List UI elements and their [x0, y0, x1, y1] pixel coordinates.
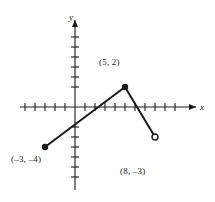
falling-segment: [125, 87, 155, 137]
vertex-point-marker: [122, 84, 128, 90]
right-endpoint-label: (8, –3): [120, 167, 145, 176]
left-endpoint-label: (–3, –4): [11, 155, 41, 164]
left-endpoint-marker: [42, 144, 48, 150]
rising-segment: [45, 87, 125, 147]
graph-canvas: [0, 0, 215, 202]
x-axis-arrowhead: [189, 104, 196, 110]
coordinate-graph-figure: y x (5, 2) (–3, –4) (8, –3): [0, 0, 215, 202]
x-axis-label: x: [200, 103, 204, 112]
vertex-point-label: (5, 2): [99, 58, 120, 67]
y-axis-label: y: [69, 13, 73, 22]
right-endpoint-marker: [152, 134, 158, 140]
